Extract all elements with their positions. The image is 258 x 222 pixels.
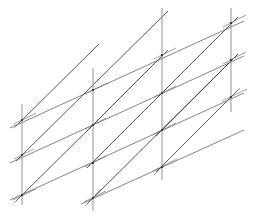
stub-c2-r0-a (85, 83, 107, 94)
stub-c1-r3-a (13, 189, 36, 200)
stub-c3-r1-a (154, 123, 176, 134)
stub-c3-r0-a (154, 86, 176, 97)
node-c4-r-2 (230, 22, 232, 24)
shallow-row-1 (10, 21, 244, 128)
node-c3-r-1 (161, 54, 163, 56)
stub-c1-r2-a (14, 149, 34, 159)
stub-c2-r1-a (85, 118, 106, 129)
node-c3-r2 (161, 166, 163, 168)
node-c1-r2 (21, 154, 23, 156)
stub-c1-r1-a (14, 113, 36, 124)
stub-c2-r2-a (85, 156, 106, 167)
node-c4-r-1 (230, 59, 232, 61)
node-c1-r3 (21, 194, 23, 196)
stub-c4-r-1-a (223, 52, 246, 64)
node-group (21, 22, 232, 199)
stub-c3-r2-a (153, 159, 177, 171)
lattice-diagram (0, 0, 258, 222)
node-c2-r2 (92, 162, 94, 164)
lattice-figure-root (0, 0, 258, 222)
node-c2-r0 (92, 89, 94, 91)
node-c2-r3 (92, 197, 94, 199)
stub-c2-r3-a (84, 191, 106, 202)
steep-diagonal-group (16, 11, 238, 204)
node-c1-r1 (21, 119, 23, 121)
node-c3-r1 (161, 129, 163, 131)
node-c2-r1 (92, 124, 94, 126)
node-c3-r0 (161, 92, 163, 94)
node-c4-r0 (230, 96, 232, 98)
steep-line-9 (156, 17, 238, 99)
stub-c4-r0-a (222, 89, 247, 101)
shallow-diagonal-group (10, 21, 244, 204)
steep-line-8 (156, 54, 238, 136)
steep-line-6 (87, 50, 168, 131)
steep-line-5 (87, 87, 168, 168)
